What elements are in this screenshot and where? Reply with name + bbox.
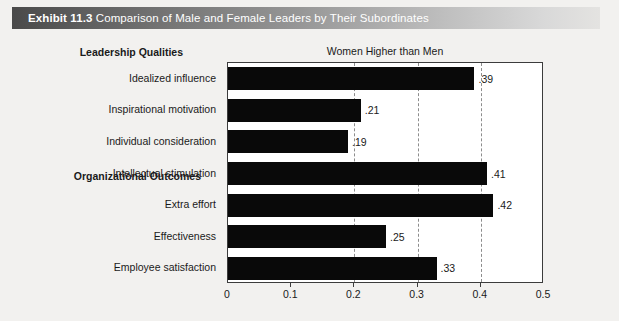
axis-tick [417,283,418,287]
axis-tick-label: 0.3 [409,288,424,300]
axis-tick [290,283,291,287]
bar-value-label: .19 [352,136,367,148]
section-heading: Leadership Qualities [80,46,183,58]
axis-tick-label: 0 [224,288,230,300]
category-label: Inspirational motivation [109,103,216,115]
axis-tick [480,283,481,287]
axis-tick-label: 0.2 [346,288,361,300]
bar [228,99,361,122]
category-label: Employee satisfaction [114,261,216,273]
axis-tick [353,283,354,287]
section-heading: Organizational Outcomes [74,170,201,182]
exhibit-number: Exhibit 11.3 [28,12,92,24]
bar-value-label: .33 [441,262,456,274]
exhibit-header-text: Exhibit 11.3 Comparison of Male and Fema… [12,12,429,24]
axis-tick-label: 0.1 [283,288,298,300]
category-label: Idealized influence [129,72,216,84]
axis-tick-label: 0.5 [536,288,551,300]
axis-tick-label: 0.4 [472,288,487,300]
bar [228,225,386,248]
bar [228,67,474,90]
exhibit-figure: Exhibit 11.3 Comparison of Male and Fema… [0,0,619,321]
exhibit-header-banner: Exhibit 11.3 Comparison of Male and Fema… [12,7,600,29]
bar-value-label: .41 [491,168,506,180]
exhibit-title: Comparison of Male and Female Leaders by… [96,12,429,24]
category-label: Effectiveness [154,230,216,242]
category-label: Individual consideration [106,135,216,147]
bar [228,130,348,153]
bar-value-label: .42 [497,199,512,211]
bar [228,257,437,280]
bar [228,162,487,185]
bar [228,194,493,217]
bar-value-label: .21 [365,104,380,116]
bar-value-label: .25 [390,231,405,243]
category-label: Extra effort [165,198,216,210]
chart-title: Women Higher than Men [227,45,543,57]
category-label-column: Idealized influenceInspirational motivat… [0,44,227,288]
x-axis: 00.10.20.30.40.5 [227,283,543,309]
bar-value-label: .39 [478,73,493,85]
plot-area: .39.21.19.41.42.25.33 [227,62,543,283]
